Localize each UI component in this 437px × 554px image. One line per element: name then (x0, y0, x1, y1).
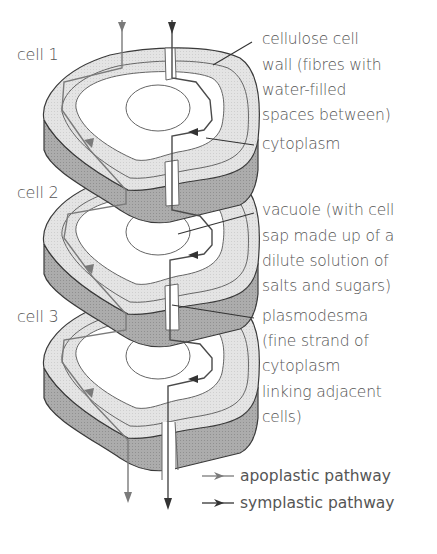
symplastic-arrow-icon (168, 22, 176, 34)
annotation-line: (fine strand of (262, 331, 369, 352)
annotation-line: spaces between) (262, 105, 391, 126)
legend-label: symplastic pathway (240, 494, 395, 512)
legend-item-apoplastic: apoplastic pathway (200, 466, 391, 486)
symplastic-arrow-icon (164, 498, 172, 510)
annotation-line: cytoplasm (262, 356, 340, 377)
symplastic-arrow-icon (200, 497, 236, 509)
annotation-line: water-filled (262, 80, 346, 101)
apoplastic-arrow-icon (118, 22, 126, 32)
annotation-line: cells) (262, 407, 302, 428)
annotation-line: wall (fibres with (262, 55, 381, 76)
annotation-line: plasmodesma (262, 306, 368, 327)
cell-3-label: cell 3 (17, 306, 59, 327)
cell-1-label: cell 1 (17, 44, 59, 65)
annotation-line: dilute solution of (262, 251, 388, 272)
legend-label: apoplastic pathway (240, 467, 391, 485)
annotation-line: cellulose cell (262, 29, 359, 50)
apoplastic-arrow-icon (124, 492, 132, 503)
legend-item-symplastic: symplastic pathway (200, 493, 395, 513)
annotation-line: linking adjacent (262, 382, 382, 403)
annotation-line: sap made up of a (262, 226, 394, 247)
apoplastic-arrow-icon (200, 470, 236, 482)
cell-2-label: cell 2 (17, 182, 59, 203)
annotation-line: salts and sugars) (262, 276, 391, 297)
annotation-line: vacuole (with cell (262, 200, 394, 221)
annotation-cytoplasm: cytoplasm (262, 134, 340, 155)
